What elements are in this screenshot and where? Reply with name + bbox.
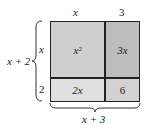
left-brace-label: x + 2 [7, 56, 30, 67]
left-brace-icon [32, 21, 42, 101]
bottom-brace-label: x + 3 [82, 114, 105, 125]
bottom-brace-icon [50, 103, 140, 112]
